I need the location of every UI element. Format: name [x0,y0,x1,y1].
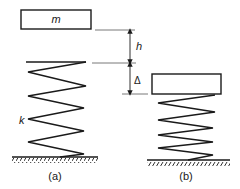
panel-a: m k (a) [12,10,98,182]
ground-hatch-b [147,161,230,166]
caption-b: (b) [179,170,192,182]
spring-a [28,62,86,157]
caption-a: (a) [48,170,61,182]
mass-label: m [51,13,60,25]
panel-b: (b) [147,74,230,182]
spring-mass-diagram: m k (a) h Δ (b) [0,0,240,189]
spring-constant-label: k [19,114,25,126]
ground-hatch-a [12,158,98,163]
mass-block-b [152,74,221,94]
height-label: h [136,40,142,52]
dimensions: h Δ [92,30,148,94]
compression-label: Δ [134,75,141,86]
spring-b [158,95,215,160]
